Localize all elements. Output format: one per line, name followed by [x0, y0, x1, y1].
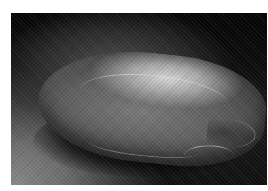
grain-photograph [11, 13, 267, 185]
grain-ridge-highlight [79, 67, 231, 106]
